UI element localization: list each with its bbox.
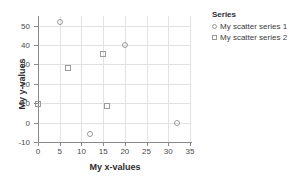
- gridline-vertical: [81, 16, 82, 142]
- legend-item[interactable]: My scatter series 1: [212, 22, 292, 31]
- legend-item-label: My scatter series 2: [220, 33, 287, 42]
- data-point: [100, 51, 106, 57]
- x-tick-label: 20: [120, 147, 129, 156]
- gridline-vertical: [60, 16, 61, 142]
- legend-title: Series: [212, 10, 292, 19]
- x-tick-label: 10: [77, 147, 86, 156]
- y-tick-mark: [34, 103, 38, 104]
- legend-item-label: My scatter series 1: [220, 22, 287, 31]
- data-point: [122, 42, 128, 48]
- gridline-vertical: [125, 16, 126, 142]
- y-tick-mark: [34, 26, 38, 27]
- x-tick-label: 0: [36, 147, 40, 156]
- y-tick-mark: [34, 64, 38, 65]
- x-tick-label: 30: [164, 147, 173, 156]
- y-axis-line: [38, 16, 39, 142]
- y-tick-mark: [34, 142, 38, 143]
- square-marker-icon: [212, 35, 217, 40]
- x-axis-title: My x-values: [38, 162, 192, 172]
- y-tick-label: -10: [18, 138, 30, 147]
- gridline-vertical: [103, 16, 104, 142]
- data-point: [65, 65, 71, 71]
- data-point: [174, 120, 180, 126]
- gridline-horizontal: [38, 123, 190, 124]
- gridline-horizontal: [38, 45, 190, 46]
- legend-items: My scatter series 1My scatter series 2: [212, 22, 292, 42]
- x-tick-label: 25: [142, 147, 151, 156]
- y-axis-title: My y-values: [17, 34, 27, 134]
- y-tick-mark: [34, 123, 38, 124]
- gridline-horizontal: [38, 26, 190, 27]
- x-tick-label: 35: [186, 147, 195, 156]
- legend-item[interactable]: My scatter series 2: [212, 33, 292, 42]
- data-point: [57, 19, 63, 25]
- gridline-horizontal: [38, 84, 190, 85]
- x-tick-mark: [60, 142, 61, 146]
- x-tick-label: 15: [99, 147, 108, 156]
- x-tick-mark: [147, 142, 148, 146]
- x-tick-mark: [81, 142, 82, 146]
- data-point: [87, 131, 93, 137]
- scatter-chart: 05101520253035 -1001020304050 My x-value…: [0, 0, 294, 185]
- circle-marker-icon: [212, 24, 217, 29]
- x-tick-mark: [103, 142, 104, 146]
- gridline-vertical: [168, 16, 169, 142]
- plot-area: [38, 16, 190, 142]
- gridline-horizontal: [38, 64, 190, 65]
- y-tick-label: 50: [21, 21, 30, 30]
- y-tick-mark: [34, 84, 38, 85]
- legend: Series My scatter series 1My scatter ser…: [212, 10, 292, 44]
- x-tick-mark: [38, 142, 39, 146]
- gridline-horizontal: [38, 103, 190, 104]
- gridline-vertical: [147, 16, 148, 142]
- y-tick-mark: [34, 45, 38, 46]
- x-tick-mark: [168, 142, 169, 146]
- gridline-vertical: [190, 16, 191, 142]
- data-point: [104, 103, 110, 109]
- x-tick-label: 5: [57, 147, 61, 156]
- x-tick-mark: [190, 142, 191, 146]
- x-tick-mark: [125, 142, 126, 146]
